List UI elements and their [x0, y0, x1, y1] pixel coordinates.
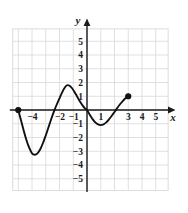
svg-text:−4: −4 — [27, 112, 37, 122]
svg-text:1: 1 — [98, 112, 103, 122]
svg-text:4: 4 — [140, 112, 145, 122]
axes — [10, 19, 176, 193]
svg-text:3: 3 — [126, 112, 131, 122]
svg-text:5: 5 — [153, 112, 158, 122]
svg-text:−1: −1 — [73, 119, 83, 129]
svg-text:−3: −3 — [73, 147, 83, 157]
svg-text:4: 4 — [78, 50, 83, 60]
svg-text:−2: −2 — [55, 112, 65, 122]
svg-text:3: 3 — [78, 64, 83, 74]
svg-text:−2: −2 — [73, 133, 83, 143]
svg-text:−5: −5 — [73, 174, 83, 184]
svg-text:−4: −4 — [73, 160, 83, 170]
svg-text:2: 2 — [78, 78, 83, 88]
svg-text:y: y — [74, 14, 81, 26]
graph-figure: −4−2−1134554321−1−2−3−4−5 yx — [0, 0, 188, 213]
svg-text:5: 5 — [78, 37, 83, 47]
coordinate-plot: −4−2−1134554321−1−2−3−4−5 yx — [0, 0, 188, 213]
svg-text:x: x — [169, 111, 176, 123]
